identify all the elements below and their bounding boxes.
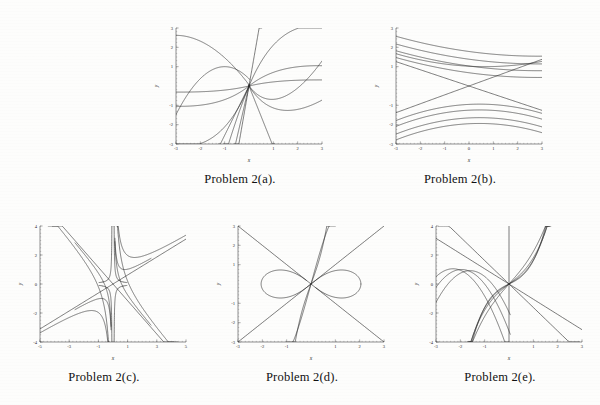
svg-text:-1: -1	[389, 103, 394, 108]
svg-text:0: 0	[35, 282, 38, 287]
figure-problem-2d: -3-2-1123-3-2-1123xy Problem 2(d).	[212, 218, 392, 385]
document-page: -3-2-1123-3-2-1123xy Problem 2(a). -3-2-…	[0, 0, 600, 405]
svg-text:-1: -1	[96, 344, 101, 349]
svg-text:-5: -5	[38, 344, 43, 349]
caption-problem-2d: Problem 2(d).	[212, 370, 392, 385]
svg-text:-3: -3	[394, 146, 399, 151]
svg-text:2: 2	[233, 243, 236, 248]
svg-text:2: 2	[359, 344, 362, 349]
svg-text:x: x	[507, 355, 511, 361]
figure-problem-2b: -3-2-10123-3-2-1123xy Problem 2(b).	[370, 20, 550, 187]
svg-text:3: 3	[233, 224, 236, 229]
svg-text:y: y	[17, 282, 23, 286]
svg-text:2: 2	[431, 253, 434, 258]
plot-problem-2a: -3-2-1123-3-2-1123xy	[150, 20, 330, 170]
svg-text:-2: -2	[33, 311, 38, 316]
caption-problem-2e: Problem 2(e).	[410, 370, 590, 385]
svg-text:2: 2	[297, 146, 300, 151]
svg-text:2: 2	[557, 344, 560, 349]
svg-text:3: 3	[581, 344, 584, 349]
svg-text:1: 1	[492, 146, 495, 151]
svg-text:1: 1	[391, 64, 394, 69]
svg-text:2: 2	[517, 146, 520, 151]
svg-text:1: 1	[233, 262, 236, 267]
figure-problem-2a: -3-2-1123-3-2-1123xy Problem 2(a).	[150, 20, 330, 187]
svg-text:3: 3	[321, 146, 324, 151]
caption-problem-2b: Problem 2(b).	[370, 172, 550, 187]
svg-text:3: 3	[156, 344, 159, 349]
svg-text:5: 5	[185, 344, 188, 349]
svg-text:2: 2	[35, 253, 38, 258]
svg-text:2: 2	[171, 45, 174, 50]
svg-text:-1: -1	[169, 103, 174, 108]
svg-text:y: y	[215, 282, 221, 286]
svg-text:-3: -3	[67, 344, 72, 349]
svg-text:-4: -4	[33, 340, 38, 345]
svg-text:-3: -3	[434, 344, 439, 349]
svg-text:0: 0	[468, 146, 471, 151]
svg-text:y: y	[413, 282, 419, 286]
svg-text:3: 3	[171, 26, 174, 31]
svg-text:x: x	[247, 157, 251, 163]
caption-problem-2c: Problem 2(c).	[14, 370, 194, 385]
svg-text:-2: -2	[260, 344, 265, 349]
svg-text:1: 1	[334, 344, 337, 349]
svg-text:2: 2	[391, 45, 394, 50]
svg-text:4: 4	[35, 224, 38, 229]
svg-text:-1: -1	[443, 146, 448, 151]
svg-text:-3: -3	[389, 142, 394, 147]
svg-text:-2: -2	[458, 344, 463, 349]
svg-text:-3: -3	[236, 344, 241, 349]
svg-text:x: x	[309, 355, 313, 361]
caption-problem-2a: Problem 2(a).	[150, 172, 330, 187]
svg-text:4: 4	[431, 224, 434, 229]
svg-text:-1: -1	[483, 344, 488, 349]
svg-text:-3: -3	[174, 146, 179, 151]
svg-text:1: 1	[272, 146, 275, 151]
figure-problem-2e: -3-2-1123-4-2024xy Problem 2(e).	[410, 218, 590, 385]
plot-problem-2c: -5-3-1135-4-2024xy	[14, 218, 194, 368]
svg-text:x: x	[467, 157, 471, 163]
svg-text:-2: -2	[418, 146, 423, 151]
svg-text:-3: -3	[169, 142, 174, 147]
svg-text:-4: -4	[429, 340, 434, 345]
svg-text:-1: -1	[223, 146, 228, 151]
svg-text:3: 3	[383, 344, 386, 349]
svg-text:3: 3	[541, 146, 544, 151]
svg-text:x: x	[111, 355, 115, 361]
svg-text:1: 1	[171, 64, 174, 69]
svg-text:-1: -1	[231, 301, 236, 306]
svg-text:-1: -1	[285, 344, 290, 349]
svg-text:-2: -2	[389, 122, 394, 127]
svg-text:-2: -2	[429, 311, 434, 316]
svg-text:-2: -2	[198, 146, 203, 151]
svg-text:-2: -2	[231, 320, 236, 325]
plot-problem-2b: -3-2-10123-3-2-1123xy	[370, 20, 550, 170]
svg-text:-3: -3	[231, 340, 236, 345]
svg-text:0: 0	[431, 282, 434, 287]
svg-text:y: y	[153, 84, 159, 88]
plot-problem-2d: -3-2-1123-3-2-1123xy	[212, 218, 392, 368]
svg-text:-2: -2	[169, 122, 174, 127]
svg-text:3: 3	[391, 26, 394, 31]
svg-text:1: 1	[126, 344, 129, 349]
svg-text:1: 1	[532, 344, 535, 349]
plot-problem-2e: -3-2-1123-4-2024xy	[410, 218, 590, 368]
figure-problem-2c: -5-3-1135-4-2024xy Problem 2(c).	[14, 218, 194, 385]
svg-text:y: y	[373, 84, 379, 88]
